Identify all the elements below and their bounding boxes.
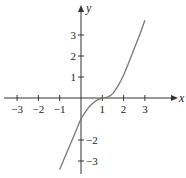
- y-tick-label: 2: [71, 50, 77, 62]
- x-tick-label: 3: [142, 103, 148, 115]
- axes: [4, 5, 178, 174]
- y-tick-label: −3: [86, 155, 98, 167]
- x-axis-label: x: [178, 91, 185, 105]
- function-graph: −3−2−1123−3−2123 x y: [0, 0, 186, 178]
- y-axis-arrow-icon: [78, 5, 84, 12]
- x-tick-label: 2: [121, 103, 127, 115]
- curve: [60, 20, 145, 169]
- x-tick-label: −3: [11, 103, 23, 115]
- x-tick-label: −2: [33, 103, 45, 115]
- y-axis-label: y: [85, 1, 92, 15]
- y-tick-label: −2: [86, 134, 98, 146]
- x-tick-label: 1: [100, 103, 106, 115]
- x-axis-arrow-icon: [171, 95, 178, 101]
- y-tick-label: 3: [71, 29, 77, 41]
- series-line: [60, 20, 145, 169]
- y-tick-label: 1: [71, 71, 77, 83]
- x-tick-label: −1: [54, 103, 66, 115]
